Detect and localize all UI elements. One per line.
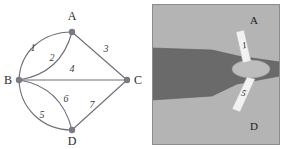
- graph-edge-5: [19, 80, 72, 130]
- graph-vertex-label-a: A: [68, 9, 77, 23]
- graph-vertex-d[interactable]: [69, 127, 75, 133]
- map-panel: 1 5 A D: [152, 4, 280, 145]
- graph-vertex-label-d: D: [68, 134, 77, 148]
- map-island: [232, 60, 270, 78]
- map-svg: 1 5 A D: [152, 4, 280, 145]
- graph-vertex-c[interactable]: [124, 77, 130, 83]
- graph-edge-6: [19, 80, 72, 130]
- graph-edge-label-5: 5: [40, 109, 45, 120]
- graph-edge-label-6: 6: [64, 93, 69, 104]
- graph-edge-7: [72, 80, 127, 130]
- graph-vertex-a[interactable]: [69, 29, 75, 35]
- graph-edge-label-1: 1: [31, 42, 36, 53]
- figure-container: A B C D 1 2 3 4 5 6 7 1: [0, 0, 283, 149]
- graph-svg: A B C D 1 2 3 4 5 6 7: [0, 0, 150, 149]
- graph-edge-3: [72, 32, 127, 80]
- graph-panel: A B C D 1 2 3 4 5 6 7: [0, 0, 150, 149]
- graph-vertex-label-c: C: [134, 73, 142, 87]
- graph-edge-label-7: 7: [90, 99, 96, 110]
- graph-edge-label-2: 2: [50, 52, 55, 63]
- graph-edge-label-3: 3: [103, 43, 109, 54]
- graph-edge-2: [19, 32, 72, 80]
- graph-edge-label-4: 4: [70, 63, 75, 74]
- graph-edge-1: [19, 32, 72, 80]
- map-region-label-d: D: [250, 120, 258, 132]
- map-region-label-a: A: [250, 14, 258, 26]
- graph-vertex-label-b: B: [4, 73, 12, 87]
- graph-vertex-b[interactable]: [16, 77, 22, 83]
